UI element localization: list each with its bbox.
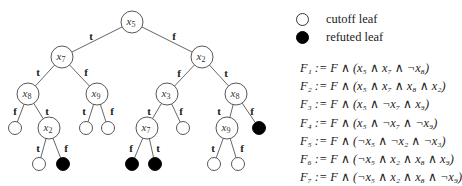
variable-node: x2 (191, 46, 213, 68)
formula-f5: F₅ := F ∧ (¬x₅ ∧ ¬x₂ ∧ ¬x₃) (300, 132, 462, 150)
refuted-leaf-node (253, 122, 266, 135)
edge-label-f: f (179, 105, 183, 117)
formula-list: F₁ := F ∧ (x₅ ∧ x₇ ∧ ¬x₈) F₂ := F ∧ (x₅ … (300, 59, 462, 186)
edge-label-f: f (240, 142, 244, 154)
refuted-leaf-node (126, 158, 139, 171)
tree-edge (149, 139, 153, 158)
edge-label-f: f (64, 142, 68, 154)
edge-label-f: f (84, 66, 88, 78)
tree-edge (88, 104, 94, 121)
formula-f1: F₁ := F ∧ (x₅ ∧ x₇ ∧ ¬x₈) (300, 59, 462, 77)
cutoff-leaf-node (208, 158, 221, 171)
edge-label-f: f (172, 30, 176, 42)
tree-nodes: x5x7x2x8x9x3x8x2x7x9 (9, 11, 266, 171)
legend-label: refuted leaf (326, 30, 383, 45)
variable-node: x8 (225, 83, 247, 105)
cutoff-leaf-node (9, 122, 22, 135)
tree-edge (153, 103, 162, 118)
formula-f7: F₇ := F ∧ (¬x₅ ∧ x₂ ∧ x₈ ∧ ¬x₉) (300, 168, 462, 186)
variable-node: x5 (121, 11, 143, 33)
legend-item-cutoff: cutoff leaf (296, 10, 383, 28)
edge-label-f: f (250, 105, 254, 117)
edge-label-t: t (224, 67, 228, 79)
variable-node: x3 (156, 83, 178, 105)
tree-edge (53, 138, 61, 158)
edge-label-t: t (156, 142, 160, 154)
tree-edge (41, 139, 46, 158)
tree-edge (230, 105, 233, 118)
edge-label-f: f (177, 67, 181, 79)
tree-edge (34, 103, 43, 118)
edge-label-t: t (147, 105, 151, 117)
variable-node: x9 (216, 117, 238, 139)
variable-node: x2 (38, 117, 60, 139)
edge-label-t: t (45, 105, 49, 117)
formula-f4: F₄ := F ∧ (x₅ ∧ ¬x₇ ∧ ¬x₉) (300, 114, 462, 132)
edge-label-t: t (36, 66, 40, 78)
edge-label-f: f (110, 105, 114, 117)
tree-edge (100, 104, 106, 121)
edge-label-f: f (129, 142, 133, 154)
formula-f3: F₃ := F ∧ (x₅ ∧ ¬x₇ ∧ x₉) (300, 95, 462, 113)
formula-f6: F₆ := F ∧ (¬x₅ ∧ x₂ ∧ x₈ ∧ x₉) (300, 150, 462, 168)
tree-edge (142, 27, 192, 52)
legend: cutoff leaf refuted leaf (296, 10, 383, 46)
tree-edge (230, 139, 236, 158)
edge-label-t: t (217, 105, 221, 117)
refuted-leaf-node (149, 158, 162, 171)
tree-edge (17, 104, 24, 122)
cutoff-leaf-node (177, 122, 190, 135)
legend-item-refuted: refuted leaf (296, 28, 383, 46)
tree-edge (135, 138, 143, 158)
filled-circle-icon (296, 31, 309, 44)
open-circle-icon (296, 13, 309, 26)
tree-edge (216, 138, 223, 158)
edge-label-t: t (36, 142, 40, 154)
variable-node: x7 (136, 117, 158, 139)
edge-label-t: t (89, 30, 93, 42)
formula-f2: F₂ := F ∧ (x₅ ∧ x₇ ∧ x₈ ∧ x₂) (300, 77, 462, 95)
edge-label-f: f (13, 105, 17, 117)
edge-label-t: t (211, 142, 215, 154)
refuted-leaf-node (57, 158, 70, 171)
legend-label: cutoff leaf (326, 12, 377, 27)
cutoff-leaf-node (80, 122, 93, 135)
variable-node: x8 (17, 83, 39, 105)
variable-node: x7 (51, 46, 73, 68)
variable-node: x9 (86, 83, 108, 105)
cutoff-leaf-node (33, 158, 46, 171)
tree-edge (72, 27, 122, 52)
cutoff-leaf-node (102, 122, 115, 135)
edge-label-t: t (82, 105, 86, 117)
cutoff-leaf-node (232, 158, 245, 171)
